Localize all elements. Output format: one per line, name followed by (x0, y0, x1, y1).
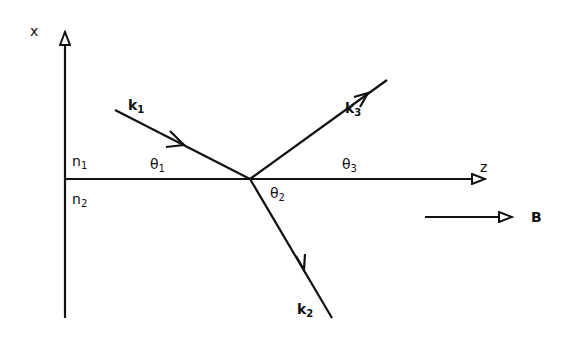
b-field-label: B (531, 210, 542, 224)
x-axis-label: x (30, 24, 38, 38)
angle-theta2-label: θ2 (270, 186, 285, 203)
angle-theta3-label: θ3 (342, 157, 357, 174)
medium-n1-label: n1 (72, 154, 87, 171)
k1-arrowhead-icon (166, 131, 184, 147)
wave-k1-label: k1 (128, 98, 144, 115)
angle-theta1-label: θ1 (150, 157, 165, 174)
k2-arrowhead-icon (296, 254, 305, 270)
z-axis-label: z (480, 160, 487, 174)
transmitted-ray-k2 (250, 179, 332, 318)
wave-k2-label: k2 (297, 302, 313, 319)
wave-k3-label: k3 (345, 101, 361, 118)
medium-n2-label: n2 (72, 192, 87, 209)
